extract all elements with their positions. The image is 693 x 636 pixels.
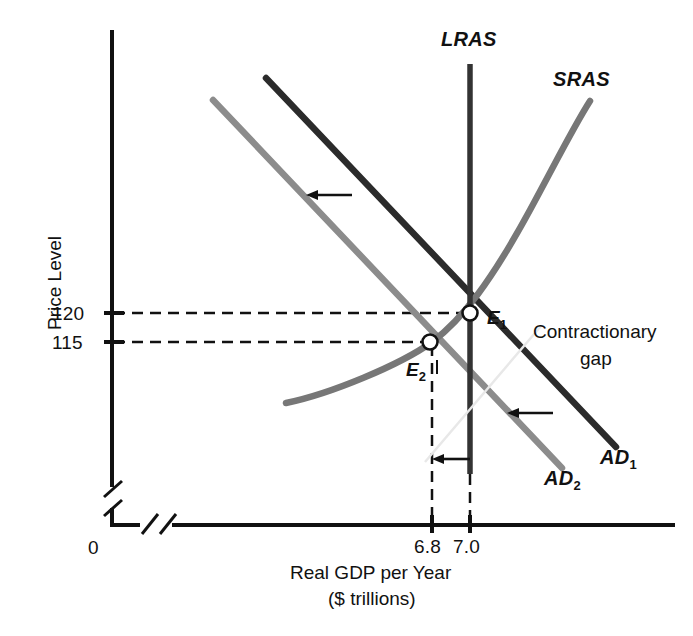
x-tick-label-7-0: 7.0: [453, 537, 480, 556]
ad2-label: AD2: [544, 468, 581, 492]
shift-arrow-bottom: [432, 454, 470, 464]
ad-as-contractionary-gap-figure: Price Level 120 115 0 6.8 7.0 Real GDP p…: [0, 0, 693, 636]
equilibrium-point-e1: [463, 306, 478, 321]
origin-label: 0: [88, 538, 99, 557]
sras-label: SRAS: [553, 69, 610, 89]
equilibrium-label-e1: E1: [487, 308, 507, 331]
y-tick-label-120: 120: [52, 304, 84, 323]
ad1-label-text: AD: [600, 446, 630, 468]
chart-canvas: [0, 0, 693, 636]
e2-label-subscript: 2: [419, 369, 426, 384]
equilibrium-label-e2: E2: [406, 360, 426, 383]
x-axis-title-line2: ($ trillions): [328, 589, 416, 608]
shift-arrow-top: [306, 190, 352, 200]
e1-label-text: E: [487, 307, 500, 328]
e2-label-text: E: [406, 359, 419, 380]
x-axis-title-line1: Real GDP per Year: [290, 563, 451, 582]
ad1-label: AD1: [600, 447, 637, 471]
e1-label-subscript: 1: [500, 317, 507, 332]
contractionary-gap-annotation-line2: gap: [580, 349, 612, 368]
y-tick-label-115: 115: [52, 333, 83, 352]
equilibrium-point-e2: [423, 335, 438, 350]
lras-label: LRAS: [441, 29, 497, 49]
x-tick-label-6-8: 6.8: [414, 537, 441, 556]
ad2-label-subscript: 2: [574, 478, 582, 493]
x-axis-break-mark: [142, 514, 158, 534]
ad2-label-text: AD: [544, 467, 574, 489]
contractionary-gap-annotation-line1: Contractionary: [533, 322, 657, 341]
guide-lines-group: [114, 313, 470, 523]
ad1-label-subscript: 1: [630, 457, 638, 472]
